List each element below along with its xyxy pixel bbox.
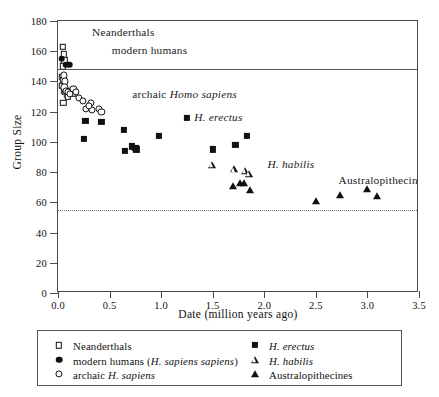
x-tick xyxy=(161,291,162,298)
x-tick xyxy=(367,291,368,298)
x-tick-label: 3.0 xyxy=(361,300,375,311)
y-tick-label: 20 xyxy=(36,257,47,268)
legend-item: H. erectus xyxy=(251,338,353,353)
data-point-filled-square xyxy=(210,146,216,152)
data-point-open-square xyxy=(60,43,66,49)
data-point-filled-square xyxy=(232,142,238,148)
data-point-open-triangle xyxy=(245,170,253,177)
y-tick-label: 100 xyxy=(31,136,47,147)
y-tick-label: 0 xyxy=(42,288,47,299)
plot-area: Neanderthalsmodern humansarchaic Homo sa… xyxy=(57,20,418,292)
x-tick xyxy=(58,291,59,298)
y-tick-label: 40 xyxy=(36,227,47,238)
data-point-open-triangle xyxy=(208,161,216,168)
data-point-filled-square xyxy=(81,136,87,142)
plot-canvas: Neanderthalsmodern humansarchaic Homo sa… xyxy=(58,21,417,291)
legend-label: H. habilis xyxy=(269,354,313,369)
y-tick-label: 140 xyxy=(31,76,47,87)
australopithecines-label: Australopithecines xyxy=(339,174,417,186)
legend-label: H. erectus xyxy=(269,339,314,354)
h-habilis-label: H. habilis xyxy=(267,158,314,170)
modern-humans-label: modern humans xyxy=(112,44,188,56)
upper-solid-line xyxy=(58,69,417,70)
y-tick xyxy=(50,112,58,113)
data-point-filled-square xyxy=(82,118,88,124)
x-tick-label: 1.0 xyxy=(154,300,168,311)
data-point-filled-circle xyxy=(66,62,73,69)
y-tick-label: 60 xyxy=(36,197,47,208)
legend-item: modern humans (H. sapiens sapiens) xyxy=(55,353,238,368)
data-point-open-circle xyxy=(98,108,105,115)
x-tick-label: 2.5 xyxy=(309,300,323,311)
legend-item: Australopithecines xyxy=(251,367,353,382)
y-tick xyxy=(50,263,58,264)
h-erectus-label: H. erectus xyxy=(194,111,243,123)
legend-item: H. habilis xyxy=(251,353,353,368)
x-tick xyxy=(264,291,265,298)
legend-item: Neanderthals xyxy=(55,338,238,353)
y-tick-label: 120 xyxy=(31,106,47,117)
y-tick xyxy=(50,293,58,294)
y-tick xyxy=(50,172,58,173)
x-tick-label: 3.5 xyxy=(412,300,426,311)
legend-box: Neanderthalsmodern humans (H. sapiens sa… xyxy=(37,330,402,386)
data-point-filled-triangle xyxy=(336,191,344,198)
data-point-filled-square xyxy=(244,133,250,139)
legend-column-right: H. erectusH. habilisAustralopithecines xyxy=(251,338,353,382)
data-point-filled-triangle xyxy=(373,192,381,199)
x-tick xyxy=(316,291,317,298)
data-point-filled-square xyxy=(184,115,190,121)
legend-column-left: Neanderthalsmodern humans (H. sapiens sa… xyxy=(55,338,238,382)
data-point-open-triangle xyxy=(230,165,238,172)
y-tick-label: 180 xyxy=(31,16,47,27)
y-axis-title: Group Size xyxy=(11,114,23,169)
y-tick xyxy=(50,51,58,52)
x-tick xyxy=(419,291,420,298)
data-point-filled-triangle xyxy=(246,186,254,193)
x-tick-label: 0.5 xyxy=(103,300,117,311)
data-point-filled-square xyxy=(132,145,138,151)
legend-item: archaic H. sapiens xyxy=(55,367,238,382)
y-tick xyxy=(50,142,58,143)
group-size-vs-date-scatter-figure: Group Size Neanderthalsmodern humansarch… xyxy=(0,0,439,397)
neanderthals-label: Neanderthals xyxy=(92,26,155,38)
x-axis-title: Date (million years ago) xyxy=(178,308,297,320)
data-point-filled-square xyxy=(121,127,127,133)
y-tick-label: 160 xyxy=(31,46,47,57)
data-point-open-square xyxy=(60,99,66,105)
archaic-homo-sapiens-label: archaic Homo sapiens xyxy=(132,88,237,100)
data-point-filled-square xyxy=(98,119,104,125)
data-point-filled-square xyxy=(122,148,128,154)
y-tick-label: 80 xyxy=(36,167,47,178)
data-point-filled-triangle xyxy=(312,197,320,204)
legend-label: Australopithecines xyxy=(269,368,353,383)
legend-label: Neanderthals xyxy=(73,339,132,354)
x-tick xyxy=(213,291,214,298)
y-tick xyxy=(50,81,58,82)
y-tick xyxy=(50,21,58,22)
y-tick xyxy=(50,202,58,203)
x-tick xyxy=(110,291,111,298)
legend-label: modern humans (H. sapiens sapiens) xyxy=(73,354,238,369)
x-tick-label: 0.0 xyxy=(51,300,65,311)
y-tick xyxy=(50,233,58,234)
data-point-filled-triangle xyxy=(240,179,248,186)
legend-label: archaic H. sapiens xyxy=(73,368,155,383)
lower-dotted-line xyxy=(58,210,417,211)
data-point-filled-square xyxy=(156,133,162,139)
